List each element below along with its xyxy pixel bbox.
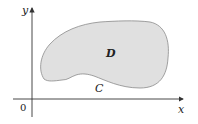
region-label: D — [106, 48, 116, 59]
origin-label: 0 — [20, 103, 26, 113]
boundary-curve-label: C — [95, 83, 103, 94]
region-d — [41, 21, 169, 88]
y-axis-label: y — [22, 5, 28, 16]
x-axis-label: x — [178, 104, 184, 115]
region-diagram: y x 0 D C — [0, 0, 198, 124]
diagram-canvas — [0, 0, 198, 124]
